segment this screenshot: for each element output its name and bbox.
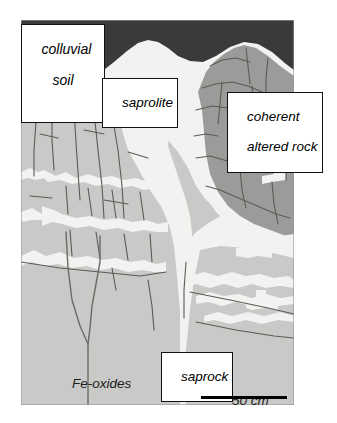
label-coherent-line1: coherent bbox=[247, 109, 300, 124]
scale-bar-line bbox=[201, 396, 287, 399]
label-fe-oxides: Fe-oxides bbox=[57, 361, 131, 406]
label-coherent-line2: altered rock bbox=[247, 139, 318, 154]
label-saprolite-text: saprolite bbox=[122, 95, 173, 110]
geological-cross-section-figure: colluvial soil saprolite coherent altere… bbox=[0, 0, 337, 423]
label-saprolite: saprolite bbox=[102, 78, 178, 128]
label-colluvial-soil: colluvial soil bbox=[21, 24, 105, 123]
label-colluvial-soil-line1: colluvial bbox=[42, 41, 92, 57]
label-fe-oxides-text: Fe-oxides bbox=[72, 376, 131, 391]
scale-bar-label: 50 cm bbox=[217, 378, 269, 423]
label-coherent-altered-rock: coherent altered rock bbox=[227, 92, 323, 173]
label-colluvial-soil-line2: soil bbox=[26, 73, 100, 89]
